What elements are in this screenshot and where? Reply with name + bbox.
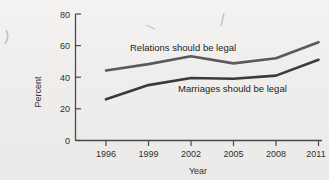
stray-mark-left <box>5 30 8 44</box>
x-tick-label-2005: 2005 <box>223 149 243 159</box>
y-tick-label-40: 40 <box>60 73 70 83</box>
chart-axes <box>76 14 323 146</box>
chart-figure: 80 60 40 20 0 1996 1999 2002 2005 2008 2… <box>0 0 329 180</box>
line-chart: 80 60 40 20 0 1996 1999 2002 2005 2008 2… <box>0 0 329 180</box>
y-tick-label-0: 0 <box>65 136 70 146</box>
y-tick-label-80: 80 <box>60 10 70 20</box>
stray-mark-center <box>146 25 155 30</box>
x-tick-label-2011: 2011 <box>306 149 325 159</box>
x-tick-label-2002: 2002 <box>181 149 201 159</box>
scan-artifacts <box>5 13 224 44</box>
y-tick-label-20: 20 <box>60 104 70 114</box>
marriages-series-label: Marriages should be legal <box>178 83 287 94</box>
x-tick-label-2008: 2008 <box>266 149 286 159</box>
relations-series-label: Relations should be legal <box>130 42 236 53</box>
y-axis-title: Percent <box>33 76 43 108</box>
y-tick-label-60: 60 <box>60 41 70 51</box>
x-tick-label-1996: 1996 <box>96 149 116 159</box>
x-tick-label-1999: 1999 <box>138 149 158 159</box>
stray-mark-right <box>221 13 224 26</box>
x-axis-title: Year <box>189 166 207 176</box>
